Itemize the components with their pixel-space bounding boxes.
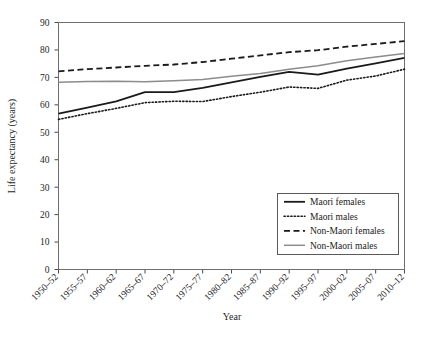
chart-figure: 0102030405060708090 1950–521955–571960–6… <box>0 0 428 337</box>
y-tick-label-40: 40 <box>40 155 50 165</box>
y-tick-label-50: 50 <box>40 128 50 138</box>
y-axis-tick-marks <box>55 23 59 270</box>
x-axis-title: Year <box>223 311 242 322</box>
x-tick-label-1: 1955–57 <box>58 272 89 303</box>
x-tick-label-9: 1995–97 <box>289 272 320 303</box>
data-series-group <box>59 41 405 119</box>
y-tick-label-70: 70 <box>40 73 50 83</box>
x-axis-tick-labels: 1950–521955–571960–621965–671970–721975–… <box>29 272 406 303</box>
x-tick-label-10: 2000–02 <box>318 272 349 303</box>
legend-label-2: Non-Maori females <box>310 226 385 236</box>
x-tick-label-5: 1975–77 <box>173 272 204 303</box>
x-tick-label-3: 1965–67 <box>116 272 147 303</box>
y-tick-label-10: 10 <box>40 237 50 247</box>
y-axis-tick-labels: 0102030405060708090 <box>40 18 50 275</box>
life-expectancy-line-chart: 0102030405060708090 1950–521955–571960–6… <box>0 0 428 337</box>
legend-label-3: Non-Maori males <box>310 241 378 251</box>
x-tick-label-2: 1960–62 <box>87 272 118 303</box>
y-tick-label-80: 80 <box>40 45 50 55</box>
x-tick-label-6: 1980–82 <box>202 272 233 303</box>
y-axis-title: Life expectancy (years) <box>6 99 18 193</box>
y-tick-label-60: 60 <box>40 100 50 110</box>
y-tick-label-30: 30 <box>40 183 50 193</box>
x-tick-label-11: 2005–07 <box>346 272 377 303</box>
series-line-maori-females <box>59 58 405 114</box>
legend-label-1: Maori males <box>310 212 358 222</box>
x-tick-label-12: 2010–12 <box>375 272 406 303</box>
x-tick-label-4: 1970–72 <box>145 272 176 303</box>
x-tick-label-0: 1950–52 <box>29 272 60 303</box>
y-tick-label-0: 0 <box>45 265 50 275</box>
chart-legend: Maori femalesMaori malesNon-Maori female… <box>278 194 399 255</box>
x-tick-label-8: 1990–92 <box>260 272 291 303</box>
y-tick-label-90: 90 <box>40 18 50 28</box>
x-tick-label-7: 1985–87 <box>231 272 262 303</box>
y-tick-label-20: 20 <box>40 210 50 220</box>
legend-label-0: Maori females <box>310 197 365 207</box>
